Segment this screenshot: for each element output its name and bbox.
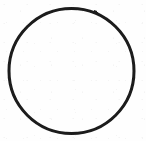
figure-canvas: Circle outline — [0, 0, 146, 141]
figure-background — [0, 0, 146, 141]
circle-figure-svg — [0, 0, 146, 141]
